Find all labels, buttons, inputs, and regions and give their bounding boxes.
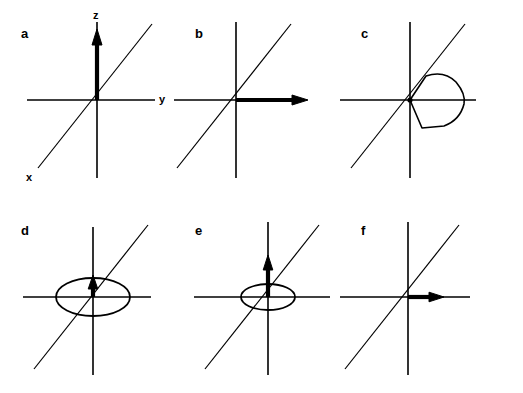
panel-a: a z y x [0, 0, 174, 196]
axis-label-z: z [93, 10, 99, 21]
axis-lines-f [340, 222, 470, 375]
panel-letter-b: b [195, 27, 203, 40]
panel-f: f [340, 197, 514, 393]
z-vector-arrow-e [263, 255, 273, 297]
panel-letter-a: a [21, 27, 28, 40]
panel-letter-c: c [361, 27, 368, 40]
panel-b: b [174, 0, 348, 196]
axis-label-x: x [26, 172, 32, 183]
panel-letter-e: e [195, 224, 202, 237]
y-vector-arrow-b [236, 95, 308, 105]
panel-letter-f: f [361, 224, 365, 237]
origin-dot-c [407, 97, 412, 102]
x-axis-line [351, 24, 465, 168]
x-axis-line [177, 24, 291, 168]
figure-canvas: a z y x b c [0, 0, 523, 393]
panel-e: e [174, 197, 348, 393]
axis-label-y: y [159, 94, 165, 105]
axis-lines-a [27, 22, 155, 178]
axis-lines-d [23, 225, 151, 375]
panel-d: d [0, 197, 174, 393]
orbital-lobe-c [410, 74, 464, 128]
y-vector-arrow-f [408, 292, 444, 302]
panel-c: c [340, 0, 514, 196]
panel-letter-d: d [21, 224, 29, 237]
axis-lines-e [194, 222, 330, 375]
